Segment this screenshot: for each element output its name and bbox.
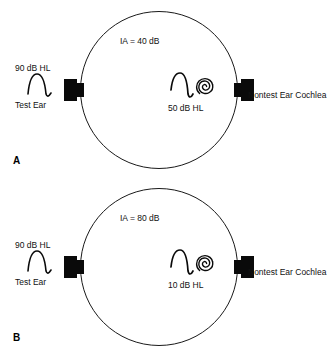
presentation-level-label-a: 90 dB HL <box>15 63 50 73</box>
interaural-attenuation-label-a: IA = 40 dB <box>120 36 159 46</box>
earphone-icon <box>64 79 77 101</box>
signal-wave-b <box>26 249 56 275</box>
panel-letter-a: A <box>13 155 20 166</box>
earphone-cushion-icon <box>234 83 241 97</box>
nontest-ear-cochlea-label-b: Nontest Ear Cochlea <box>248 267 326 277</box>
earphone-cushion-icon <box>77 83 84 97</box>
nontest-ear-cochlea-label-a: Nontest Ear Cochlea <box>248 90 326 100</box>
crossover-level-label-b: 10 dB HL <box>168 280 203 290</box>
panel-b: IA = 80 dB 90 dB HL Test Ear 10 dB HL No… <box>0 177 332 355</box>
earphone-cushion-icon <box>234 260 241 274</box>
test-ear-label-b: Test Ear <box>15 277 46 287</box>
cochlea-spiral-icon-a <box>192 74 216 98</box>
cross-hearing-figure: IA = 40 dB 90 dB HL Test Ear 50 dB HL No… <box>0 0 332 355</box>
panel-letter-b: B <box>13 332 20 343</box>
cochlea-spiral-icon-b <box>192 251 216 275</box>
earphone-cushion-icon <box>77 260 84 274</box>
signal-wave-a <box>26 72 56 98</box>
test-ear-label-a: Test Ear <box>15 100 46 110</box>
earphone-icon <box>64 256 77 278</box>
interaural-attenuation-label-b: IA = 80 dB <box>120 213 159 223</box>
crossover-level-label-a: 50 dB HL <box>168 103 203 113</box>
presentation-level-label-b: 90 dB HL <box>15 240 50 250</box>
panel-a: IA = 40 dB 90 dB HL Test Ear 50 dB HL No… <box>0 0 332 178</box>
